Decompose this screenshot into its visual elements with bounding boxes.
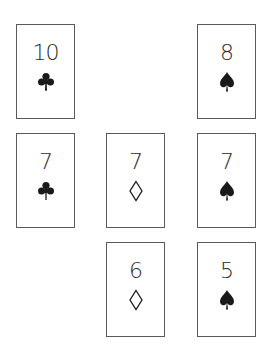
spade-icon [218, 289, 236, 311]
diamond-icon [127, 289, 145, 311]
card-7-diamonds[interactable]: 7 [106, 133, 165, 228]
club-icon [37, 180, 55, 202]
card-rank: 7 [107, 150, 164, 174]
card-7-spades[interactable]: 7 [197, 133, 256, 228]
card-rank: 10 [17, 41, 74, 65]
card-8-spades[interactable]: 8 [197, 24, 256, 119]
spade-icon [218, 71, 236, 93]
diamond-icon [127, 180, 145, 202]
card-rank: 5 [198, 259, 255, 283]
card-rank: 8 [198, 41, 255, 65]
card-7-clubs[interactable]: 7 [16, 133, 75, 228]
card-6-diamonds[interactable]: 6 [106, 242, 165, 337]
card-10-clubs[interactable]: 10 [16, 24, 75, 119]
card-rank: 6 [107, 259, 164, 283]
card-rank: 7 [17, 150, 74, 174]
spade-icon [218, 180, 236, 202]
club-icon [37, 71, 55, 93]
card-rank: 7 [198, 150, 255, 174]
card-5-spades[interactable]: 5 [197, 242, 256, 337]
